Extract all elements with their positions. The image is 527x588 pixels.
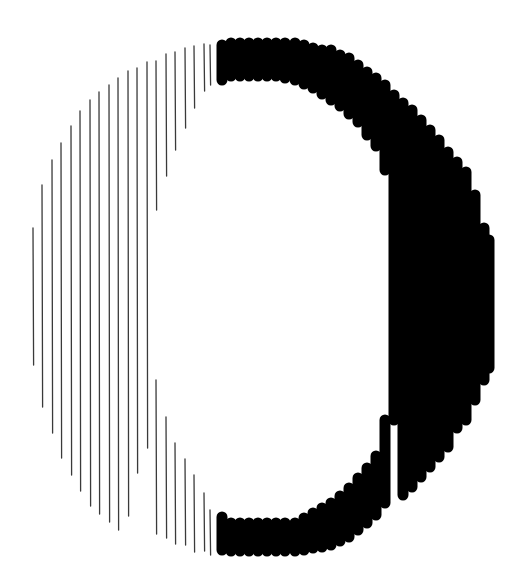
hatch-line <box>175 52 176 150</box>
hatch-line <box>156 380 157 534</box>
hatch-line <box>80 111 81 491</box>
hatch-line <box>210 45 211 85</box>
hatch-line <box>52 160 53 433</box>
hatch-line <box>166 54 167 176</box>
hatch-line <box>166 417 167 538</box>
hatch-line <box>42 185 43 407</box>
hatch-line <box>175 443 176 544</box>
hatch-line <box>61 143 62 458</box>
hatch-line <box>71 126 72 475</box>
hatch-line <box>185 48 186 128</box>
hatch-line <box>147 62 148 448</box>
hatch-line <box>137 68 138 473</box>
hatch-line <box>128 71 129 516</box>
hatch-line <box>156 61 157 210</box>
hatch-line <box>185 459 186 545</box>
hatch-line <box>33 228 34 365</box>
hatch-line <box>109 85 110 522</box>
hatch-line <box>194 475 195 552</box>
hatch-line <box>90 100 91 506</box>
hatch-line <box>99 92 100 514</box>
hatch-line <box>118 78 119 530</box>
hatch-line <box>194 46 195 108</box>
letter-o-figure <box>0 0 527 588</box>
hatch-line <box>204 44 205 91</box>
hatch-line <box>204 493 205 551</box>
hatch-line <box>210 510 211 555</box>
